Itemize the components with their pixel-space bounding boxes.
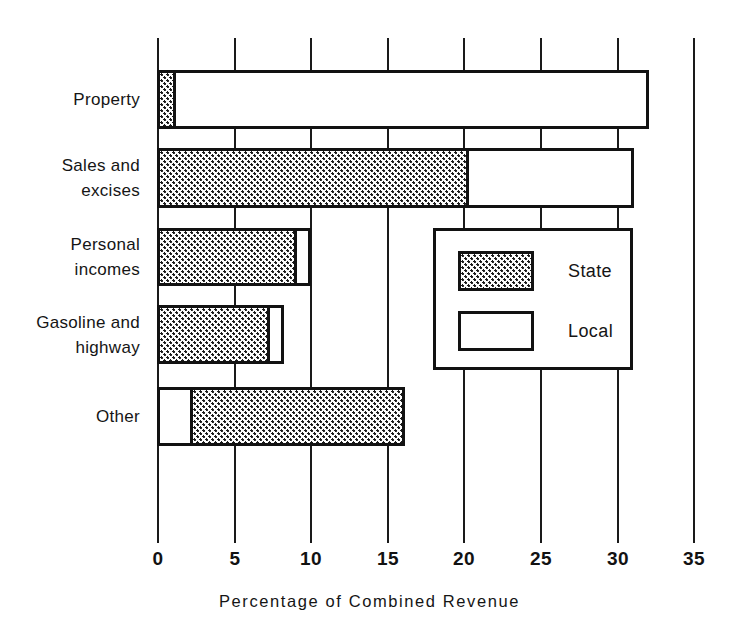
xtick-label-5: 5: [215, 548, 255, 570]
bar-segment-local-gasoline-and-highway: [270, 308, 281, 361]
bar-segment-state-personal-incomes: [160, 231, 297, 283]
bar-personal-incomes: [157, 228, 311, 286]
legend-row-local: Local: [458, 311, 613, 351]
legend: State Local: [433, 228, 633, 370]
category-label-property: Property: [0, 87, 140, 112]
category-label-other: Other: [0, 404, 140, 429]
bar-segment-local-other: [160, 390, 193, 443]
bar-sales-and-excises: [157, 148, 634, 208]
plot-area: Property Sales and excises Personal inco…: [0, 0, 739, 642]
bar-segment-local-sales-and-excises: [469, 151, 631, 205]
xtick-label-30: 30: [598, 548, 638, 570]
chart-figure: Property Sales and excises Personal inco…: [0, 0, 739, 642]
category-label-personal-incomes: Personal incomes: [0, 232, 140, 282]
bar-segment-state-sales-and-excises: [160, 151, 469, 205]
xtick-label-0: 0: [138, 548, 178, 570]
bar-segment-state-gasoline-and-highway: [160, 308, 270, 361]
bar-row-sales-and-excises: Sales and excises: [0, 148, 739, 208]
bar-segment-local-property: [176, 73, 646, 126]
bar-segment-state-property: [160, 73, 176, 126]
legend-swatch-state-icon: [458, 251, 534, 291]
bar-row-other: Other: [0, 387, 739, 446]
xtick-label-10: 10: [291, 548, 331, 570]
bar-property: [157, 70, 649, 129]
xtick-label-35: 35: [674, 548, 714, 570]
xtick-label-25: 25: [521, 548, 561, 570]
x-axis-title: Percentage of Combined Revenue: [0, 592, 739, 611]
xtick-label-20: 20: [444, 548, 484, 570]
legend-swatch-local-icon: [458, 311, 534, 351]
legend-label-state: State: [568, 261, 612, 282]
xtick-label-15: 15: [368, 548, 408, 570]
bar-other: [157, 387, 405, 446]
bar-gasoline-and-highway: [157, 305, 284, 364]
bar-segment-state-other: [193, 390, 402, 443]
category-label-gasoline-and-highway: Gasoline and highway: [0, 310, 140, 360]
bar-row-property: Property: [0, 70, 739, 129]
legend-row-state: State: [458, 251, 612, 291]
legend-label-local: Local: [568, 321, 613, 342]
category-label-sales-and-excises: Sales and excises: [0, 153, 140, 203]
bar-segment-local-personal-incomes: [297, 231, 308, 283]
